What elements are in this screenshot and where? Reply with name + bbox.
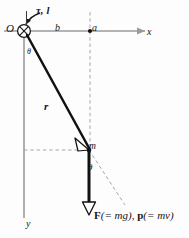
y-axis-label: y [26, 219, 30, 229]
torque-angular-momentum-label: τ, l [36, 6, 50, 17]
diagram-canvas [0, 0, 189, 238]
angle-at-mass-label: θ [88, 163, 92, 172]
moment-arm-label: b [55, 23, 60, 33]
force-momentum-label: F(= mg), p(= mv) [94, 210, 174, 221]
angle-at-origin-label: θ [27, 48, 31, 56]
mass-label: m [89, 142, 96, 152]
construction-lines-group [24, 12, 125, 205]
force-symbol: F [94, 209, 101, 221]
x-axis-arrowhead [137, 28, 145, 35]
origin-label: O [6, 23, 14, 34]
r-extension-dashed-line [89, 150, 125, 205]
position-vector-label: r [44, 101, 48, 112]
momentum-value: (= mv) [143, 209, 173, 221]
physics-diagram-figure: O τ, l b a x y r θ m θ F(= mg), p(= mv) [0, 0, 189, 238]
point-a-label: a [92, 23, 97, 33]
x-axis-label: x [147, 27, 151, 37]
position-vector-r-line [27, 35, 89, 148]
force-value: (= mg), [101, 209, 135, 221]
